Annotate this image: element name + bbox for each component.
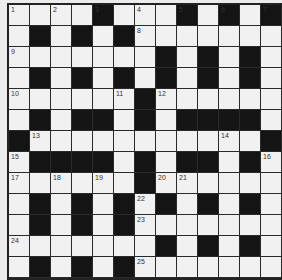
answer-cell[interactable]: [114, 47, 135, 68]
answer-cell[interactable]: [30, 5, 51, 26]
answer-cell[interactable]: [93, 68, 114, 89]
answer-cell[interactable]: [240, 89, 261, 110]
answer-cell[interactable]: [72, 89, 93, 110]
answer-cell[interactable]: [93, 26, 114, 47]
answer-cell[interactable]: [72, 131, 93, 152]
answer-cell[interactable]: [114, 173, 135, 194]
answer-cell[interactable]: [156, 26, 177, 47]
answer-cell[interactable]: 2: [51, 5, 72, 26]
answer-cell[interactable]: [9, 194, 30, 215]
answer-cell[interactable]: [219, 26, 240, 47]
answer-cell[interactable]: [177, 68, 198, 89]
answer-cell[interactable]: [93, 131, 114, 152]
answer-cell[interactable]: [177, 47, 198, 68]
answer-cell[interactable]: [114, 236, 135, 257]
answer-cell[interactable]: [177, 194, 198, 215]
answer-cell[interactable]: [240, 257, 261, 278]
answer-cell[interactable]: [51, 110, 72, 131]
answer-cell[interactable]: 17: [9, 173, 30, 194]
answer-cell[interactable]: [51, 47, 72, 68]
answer-cell[interactable]: [30, 47, 51, 68]
answer-cell[interactable]: [240, 173, 261, 194]
answer-cell[interactable]: [114, 131, 135, 152]
answer-cell[interactable]: 8: [135, 26, 156, 47]
answer-cell[interactable]: [114, 152, 135, 173]
answer-cell[interactable]: 23: [135, 215, 156, 236]
answer-cell[interactable]: [156, 110, 177, 131]
answer-cell[interactable]: [93, 47, 114, 68]
answer-cell[interactable]: [261, 173, 282, 194]
answer-cell[interactable]: [261, 68, 282, 89]
answer-cell[interactable]: [261, 47, 282, 68]
answer-cell[interactable]: [9, 257, 30, 278]
answer-cell[interactable]: [219, 257, 240, 278]
answer-cell[interactable]: [177, 215, 198, 236]
answer-cell[interactable]: [51, 215, 72, 236]
answer-cell[interactable]: [198, 131, 219, 152]
answer-cell[interactable]: 18: [51, 173, 72, 194]
answer-cell[interactable]: 24: [9, 236, 30, 257]
answer-cell[interactable]: 20: [156, 173, 177, 194]
answer-cell[interactable]: [156, 131, 177, 152]
answer-cell[interactable]: [72, 236, 93, 257]
answer-cell[interactable]: 21: [177, 173, 198, 194]
answer-cell[interactable]: [9, 110, 30, 131]
answer-cell[interactable]: [30, 173, 51, 194]
answer-cell[interactable]: [261, 110, 282, 131]
answer-cell[interactable]: [135, 68, 156, 89]
answer-cell[interactable]: 15: [9, 152, 30, 173]
answer-cell[interactable]: [156, 152, 177, 173]
answer-cell[interactable]: [93, 236, 114, 257]
answer-cell[interactable]: [51, 68, 72, 89]
answer-cell[interactable]: 25: [135, 257, 156, 278]
answer-cell[interactable]: [219, 68, 240, 89]
answer-cell[interactable]: [198, 215, 219, 236]
answer-cell[interactable]: [177, 236, 198, 257]
answer-cell[interactable]: [51, 257, 72, 278]
answer-cell[interactable]: [261, 26, 282, 47]
answer-cell[interactable]: 19: [93, 173, 114, 194]
answer-cell[interactable]: [9, 215, 30, 236]
answer-cell[interactable]: [177, 89, 198, 110]
answer-cell[interactable]: 9: [9, 47, 30, 68]
answer-cell[interactable]: [114, 110, 135, 131]
answer-cell[interactable]: [9, 68, 30, 89]
answer-cell[interactable]: 10: [9, 89, 30, 110]
answer-cell[interactable]: [9, 26, 30, 47]
answer-cell[interactable]: [177, 26, 198, 47]
answer-cell[interactable]: [198, 5, 219, 26]
answer-cell[interactable]: [261, 215, 282, 236]
answer-cell[interactable]: [51, 131, 72, 152]
answer-cell[interactable]: [261, 194, 282, 215]
answer-cell[interactable]: [72, 47, 93, 68]
answer-cell[interactable]: 13: [30, 131, 51, 152]
answer-cell[interactable]: [51, 194, 72, 215]
answer-cell[interactable]: 12: [156, 89, 177, 110]
answer-cell[interactable]: [198, 26, 219, 47]
answer-cell[interactable]: 14: [219, 131, 240, 152]
answer-cell[interactable]: [30, 89, 51, 110]
answer-cell[interactable]: [156, 5, 177, 26]
answer-cell[interactable]: [219, 215, 240, 236]
answer-cell[interactable]: [177, 131, 198, 152]
answer-cell[interactable]: 4: [135, 5, 156, 26]
answer-cell[interactable]: [93, 257, 114, 278]
answer-cell[interactable]: [219, 173, 240, 194]
answer-cell[interactable]: [93, 194, 114, 215]
answer-cell[interactable]: [156, 215, 177, 236]
answer-cell[interactable]: [240, 26, 261, 47]
answer-cell[interactable]: [261, 89, 282, 110]
answer-cell[interactable]: [219, 194, 240, 215]
answer-cell[interactable]: [261, 257, 282, 278]
answer-cell[interactable]: [198, 89, 219, 110]
answer-cell[interactable]: 11: [114, 89, 135, 110]
answer-cell[interactable]: [198, 173, 219, 194]
answer-cell[interactable]: 22: [135, 194, 156, 215]
answer-cell[interactable]: [240, 5, 261, 26]
answer-cell[interactable]: [72, 173, 93, 194]
answer-cell[interactable]: [240, 215, 261, 236]
answer-cell[interactable]: [177, 257, 198, 278]
answer-cell[interactable]: [261, 236, 282, 257]
answer-cell[interactable]: [51, 89, 72, 110]
answer-cell[interactable]: [198, 257, 219, 278]
